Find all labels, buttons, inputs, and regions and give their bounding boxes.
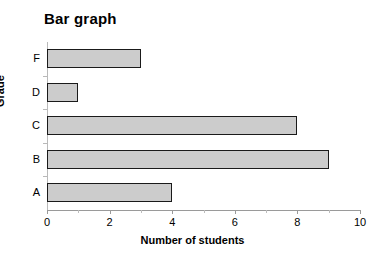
x-axis-tick [235,210,236,214]
x-axis-tick [110,210,111,214]
y-axis-tick-label: A [33,183,40,202]
bar-c[interactable] [47,116,297,135]
x-axis-title: Number of students [0,234,385,246]
y-axis-tick [43,109,47,110]
y-axis-tick [43,176,47,177]
bar-row: C [47,109,360,143]
y-axis-tick-label: B [33,150,40,169]
bar-chart: Bar graph Grade Number of students FDCBA… [0,0,385,257]
bar-row: D [47,76,360,110]
y-axis-tick [43,143,47,144]
y-axis-tick-label: D [32,83,40,102]
x-axis-tick-label: 2 [90,216,130,228]
x-axis-tick-label: 10 [340,216,380,228]
x-axis-tick-label: 0 [27,216,67,228]
bar-row: A [47,176,360,210]
bar-a[interactable] [47,183,172,202]
bar-row: F [47,42,360,76]
bar-b[interactable] [47,150,329,169]
x-axis-minor-tick [204,210,205,213]
x-axis-tick [172,210,173,214]
y-axis-tick-label: F [33,49,40,68]
bar-row: B [47,143,360,177]
x-axis-minor-tick [329,210,330,213]
x-axis-tick [47,210,48,214]
x-axis-tick-label: 8 [277,216,317,228]
bar-d[interactable] [47,83,78,102]
x-axis-minor-tick [78,210,79,213]
x-axis-minor-tick [141,210,142,213]
x-axis-tick-label: 6 [215,216,255,228]
y-axis-title: Grade [0,75,6,107]
y-axis-tick-label: C [32,116,40,135]
x-axis-tick [360,210,361,214]
bar-f[interactable] [47,49,141,68]
plot-area: FDCBA [47,42,360,210]
y-axis-tick [43,76,47,77]
x-axis-minor-tick [266,210,267,213]
x-axis-tick [297,210,298,214]
x-axis-tick-label: 4 [152,216,192,228]
chart-title: Bar graph [44,10,117,27]
